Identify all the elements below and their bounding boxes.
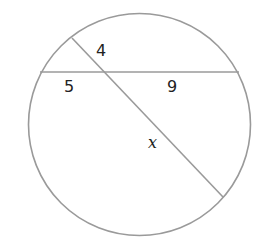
label-upper-diagonal-segment: 4 (96, 41, 106, 60)
label-right-horizontal-segment: 9 (167, 77, 177, 96)
circle-chords-diagram: 4 5 9 x (0, 0, 269, 246)
diagonal-chord (72, 38, 223, 197)
label-lower-diagonal-segment: x (148, 133, 157, 152)
circle (29, 14, 251, 236)
label-left-horizontal-segment: 5 (64, 77, 74, 96)
